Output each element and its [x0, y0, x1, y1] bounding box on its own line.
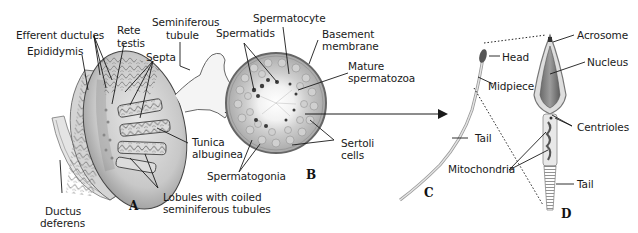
label-spermatids: Spermatids: [216, 27, 275, 39]
label-acrosome: Acrosome: [577, 29, 628, 41]
label-lobules-line1: Lobules with coiled: [163, 191, 261, 203]
label-ductus-line2: deferens: [40, 217, 85, 229]
label-tail-d: Tail: [577, 178, 594, 190]
label-spermatocyte: Spermatocyte: [253, 12, 326, 24]
label-rete-testis-line2: testis: [117, 37, 145, 49]
label-epididymis: Epididymis: [27, 45, 83, 57]
label-mitochondria: Mitochondria: [448, 163, 515, 175]
label-seminiferous-tubule-line1: Seminiferous: [152, 16, 219, 28]
label-septa: Septa: [146, 51, 176, 63]
label-mature-line2: spermatozoa: [348, 72, 415, 84]
label-head: Head: [502, 51, 529, 63]
label-mature-line1: Mature: [348, 60, 384, 72]
label-tunica-line1: Tunica: [192, 136, 225, 148]
label-sertoli-line1: Sertoli: [341, 137, 374, 149]
label-midpiece: Midpiece: [488, 80, 534, 92]
label-spermatogonia: Spermatogonia: [207, 170, 286, 182]
label-rete-testis-line1: Rete: [117, 24, 140, 36]
label-ductus-line1: Ductus: [45, 205, 81, 217]
panel-letter-a: A: [129, 199, 138, 213]
panel-letter-b: B: [306, 168, 316, 182]
label-nucleus: Nucleus: [587, 56, 628, 68]
label-basement-line2: membrane: [322, 40, 379, 52]
panel-letter-d: D: [561, 207, 571, 221]
label-tunica-line2: albuginea: [192, 148, 243, 160]
label-efferent-ductules: Efferent ductules: [16, 29, 104, 41]
label-centrioles: Centrioles: [577, 121, 629, 133]
label-seminiferous-tubule-line2: tubule: [166, 29, 199, 41]
panel-letter-c: C: [424, 186, 434, 200]
label-basement-line1: Basement: [322, 28, 374, 40]
label-sertoli-line2: cells: [341, 149, 364, 161]
tubule-cross-section: [226, 53, 326, 153]
label-lobules-line2: seminiferous tubules: [163, 203, 271, 215]
label-tail-c: Tail: [475, 132, 492, 144]
